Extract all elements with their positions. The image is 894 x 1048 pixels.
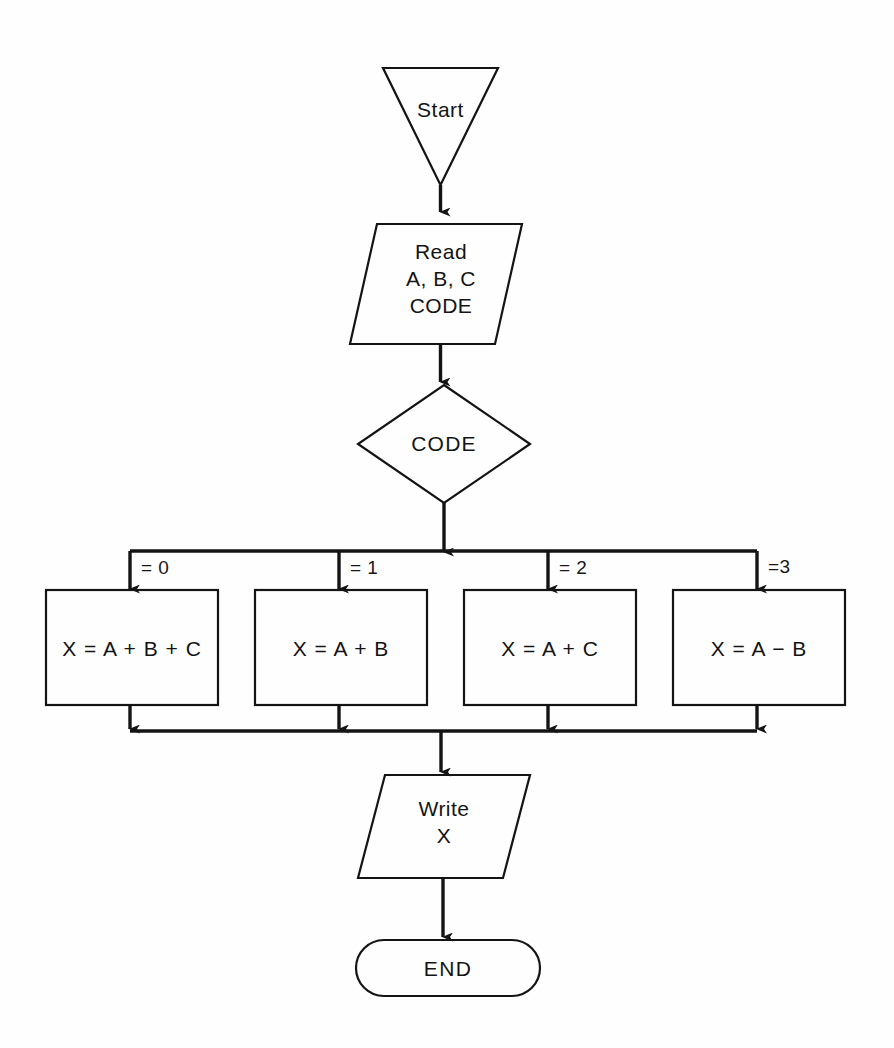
read-shape [350, 224, 522, 344]
process-box-0 [46, 590, 218, 705]
write-shape [358, 775, 530, 878]
branch-label-2: = 2 [559, 557, 587, 579]
branch-label-0: = 0 [141, 557, 169, 579]
branch-label-3: =3 [768, 556, 791, 578]
flowchart-canvas: Start Read A, B, C CODE CODE Write X END… [0, 0, 894, 1048]
decision-shape [358, 385, 530, 503]
start-shape [383, 68, 498, 185]
process-box-2 [464, 590, 636, 705]
process-box-1 [255, 590, 427, 705]
branch-label-1: = 1 [350, 557, 378, 579]
end-shape [356, 940, 540, 996]
flowchart-graphics [0, 0, 894, 1048]
process-box-3 [673, 590, 845, 705]
